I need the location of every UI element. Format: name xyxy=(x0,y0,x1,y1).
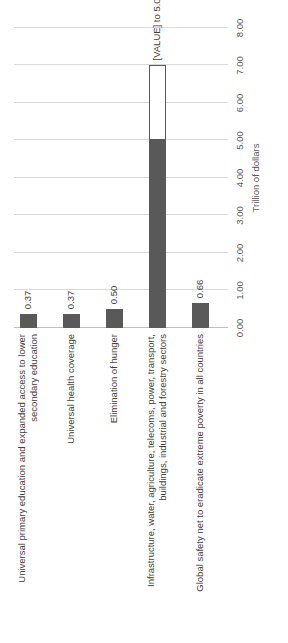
bar-segment[interactable] xyxy=(192,303,209,328)
category-label: Elimination of hunger xyxy=(108,334,120,624)
category-label: Global safety net to eradicate extreme p… xyxy=(194,334,206,624)
category-label: Universal health coverage xyxy=(65,334,77,624)
bar-segment[interactable] xyxy=(149,141,166,329)
bar-value-label: 0.37 xyxy=(23,291,33,310)
x-tick-label: 0.00 xyxy=(234,319,245,338)
bar-value-label: 0.37 xyxy=(66,291,76,310)
bar-chart: 0.001.002.003.004.005.006.007.008.00Tril… xyxy=(0,0,288,643)
bar-segment[interactable] xyxy=(20,314,37,328)
x-tick-label: 1.00 xyxy=(234,281,245,300)
bar-value-label: [VALUE] to 5.00 xyxy=(152,0,162,61)
bar-value-label: 0.50 xyxy=(109,286,119,305)
x-tick-label: 4.00 xyxy=(234,169,245,188)
category-label: Universal primary education and expanded… xyxy=(16,334,40,624)
x-tick-label: 7.00 xyxy=(234,56,245,75)
x-tick-label: 5.00 xyxy=(234,131,245,150)
bar-segment[interactable] xyxy=(106,309,123,328)
x-axis-title: Trillion of dollars xyxy=(250,144,261,213)
chart-rotation-wrapper: 0.001.002.003.004.005.006.007.008.00Tril… xyxy=(0,0,288,643)
category-label: Infrastructure, water, agriculture, tele… xyxy=(145,334,169,624)
x-tick-label: 8.00 xyxy=(234,19,245,38)
x-tick-label: 3.00 xyxy=(234,206,245,225)
plot-area: 0.001.002.003.004.005.006.007.008.00Tril… xyxy=(0,0,288,643)
x-tick-label: 6.00 xyxy=(234,94,245,113)
x-tick-label: 2.00 xyxy=(234,244,245,263)
bar-range-segment[interactable] xyxy=(149,66,166,141)
bar-value-label: 0.66 xyxy=(195,280,205,299)
bar-segment[interactable] xyxy=(63,314,80,328)
